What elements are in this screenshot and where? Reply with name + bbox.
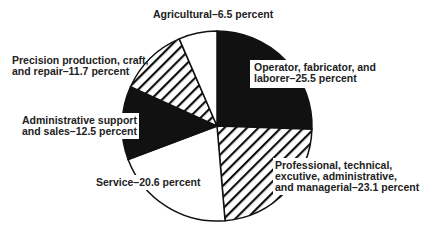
label-precision: Precision production, craft, and repair–…	[12, 55, 149, 77]
label-professional: Professional, technical, excutive, admin…	[273, 158, 419, 195]
label-service: Service–20.6 percent	[94, 175, 203, 190]
label-admin: Administrative support and sales–12.5 pe…	[20, 113, 139, 139]
label-agricultural: Agricultural–6.5 percent	[153, 9, 273, 20]
label-operator: Operator, fabricator, and laborer–25.5 p…	[250, 60, 380, 88]
